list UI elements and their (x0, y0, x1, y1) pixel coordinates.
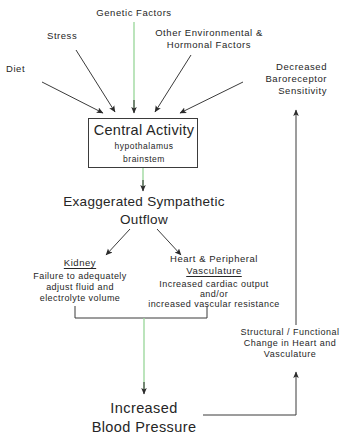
heart-line1: Increased cardiac output (143, 279, 285, 289)
label-genetic-factors: Genetic Factors (74, 8, 194, 19)
central-activity-sub-hypothalamus: hypothalamus (89, 142, 199, 152)
heart-line3: increased vascular resistance (140, 299, 288, 309)
feedback-line2: Change in Heart and (228, 338, 352, 348)
kidney-line2: adjust fluid and (22, 282, 138, 292)
heart-line2: and/or (143, 289, 285, 299)
label-baroreceptor-line3: Sensitivity (223, 86, 327, 97)
heart-heading-line2: Vasculature (148, 266, 280, 277)
outcome-line2: Blood Pressure (74, 419, 214, 435)
heart-heading-line1: Heart & Peripheral (148, 254, 280, 265)
central-activity-title: Central Activity (89, 122, 199, 138)
label-baroreceptor-line2: Baroreceptor (223, 74, 327, 85)
pathogenesis-flow-diagram: Diet Stress Genetic Factors Other Enviro… (0, 0, 358, 441)
central-activity-sub-brainstem: brainstem (89, 155, 199, 165)
arrow-diet (42, 82, 103, 113)
outflow-line2: Outflow (38, 212, 250, 227)
kidney-line3: electrolyte volume (22, 293, 138, 303)
outflow-line1: Exaggerated Sympathetic (38, 194, 250, 209)
label-stress: Stress (47, 31, 77, 42)
label-baroreceptor-line1: Decreased (223, 62, 327, 73)
arrow-outflow-to-heart (157, 229, 181, 255)
outcome-line1: Increased (74, 400, 214, 416)
feedback-outcome-to-structural (203, 372, 296, 415)
arrow-environmental (155, 55, 191, 112)
kidney-line1: Failure to adequately (22, 271, 138, 281)
label-environmental-line2: Hormonal Factors (155, 40, 263, 51)
arrow-outflow-to-kidney (106, 229, 130, 255)
kidney-heading: Kidney (26, 258, 134, 269)
label-diet: Diet (6, 64, 25, 75)
label-environmental-line1: Other Environmental & (155, 28, 263, 39)
feedback-line3: Vasculature (228, 349, 352, 359)
central-activity-box: Central Activity hypothalamus brainstem (88, 118, 198, 168)
feedback-line1: Structural / Functional (228, 327, 352, 337)
